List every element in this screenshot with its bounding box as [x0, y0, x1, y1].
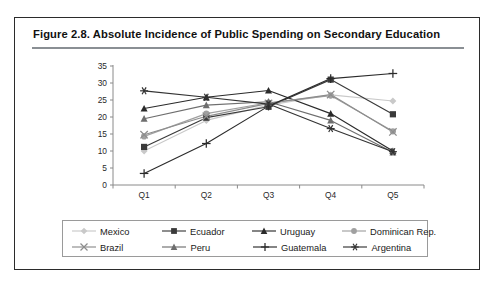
- svg-text:30: 30: [98, 78, 108, 88]
- figure-title: Figure 2.8. Absolute Incidence of Public…: [33, 28, 463, 40]
- svg-text:5: 5: [102, 163, 107, 173]
- svg-text:0: 0: [102, 180, 107, 190]
- plus-marker-icon: [252, 239, 278, 257]
- svg-text:Q2: Q2: [201, 190, 213, 200]
- svg-text:Q3: Q3: [263, 190, 275, 200]
- legend-item-argentina[interactable]: Argentina: [342, 240, 427, 256]
- svg-text:Q1: Q1: [139, 190, 151, 200]
- svg-text:15: 15: [98, 129, 108, 139]
- legend-label: Brazil: [100, 243, 123, 253]
- legend-row: BrazilPeruGuatemalaArgentina: [63, 240, 427, 256]
- svg-text:20: 20: [98, 112, 108, 122]
- legend-label: Uruguay: [280, 227, 315, 237]
- legend-item-brazil[interactable]: Brazil: [63, 240, 161, 256]
- legend-item-mexico[interactable]: Mexico: [63, 224, 161, 240]
- line-chart-svg: 05101520253035Q1Q2Q3Q4Q5: [85, 60, 430, 207]
- legend-item-peru[interactable]: Peru: [161, 240, 251, 256]
- series-uruguay: [141, 87, 397, 154]
- x-marker-icon: [71, 239, 97, 257]
- legend-label: Guatemala: [281, 243, 326, 253]
- legend-label: Dominican Rep.: [370, 227, 436, 237]
- chart-plot-area: 05101520253035Q1Q2Q3Q4Q5: [85, 60, 430, 207]
- asterisk-marker-icon: [342, 239, 368, 257]
- figure-container: Figure 2.8. Absolute Incidence of Public…: [14, 17, 480, 270]
- legend-label: Ecuador: [190, 227, 225, 237]
- svg-text:10: 10: [98, 146, 108, 156]
- legend-row: MexicoEcuadorUruguayDominican Rep.: [63, 224, 427, 240]
- svg-text:Q5: Q5: [387, 190, 399, 200]
- legend-label: Argentina: [371, 243, 411, 253]
- legend-label: Peru: [190, 243, 210, 253]
- legend-item-ecuador[interactable]: Ecuador: [161, 224, 251, 240]
- triangle-marker-icon: [161, 239, 187, 257]
- legend-item-guatemala[interactable]: Guatemala: [252, 240, 342, 256]
- title-divider: [32, 47, 464, 49]
- legend-item-uruguay[interactable]: Uruguay: [251, 224, 341, 240]
- svg-text:Q4: Q4: [325, 190, 337, 200]
- svg-text:35: 35: [98, 61, 108, 71]
- chart-legend: MexicoEcuadorUruguayDominican Rep.Brazil…: [62, 220, 428, 257]
- legend-label: Mexico: [100, 227, 129, 237]
- legend-item-dominican-rep[interactable]: Dominican Rep.: [341, 224, 427, 240]
- svg-text:25: 25: [98, 95, 108, 105]
